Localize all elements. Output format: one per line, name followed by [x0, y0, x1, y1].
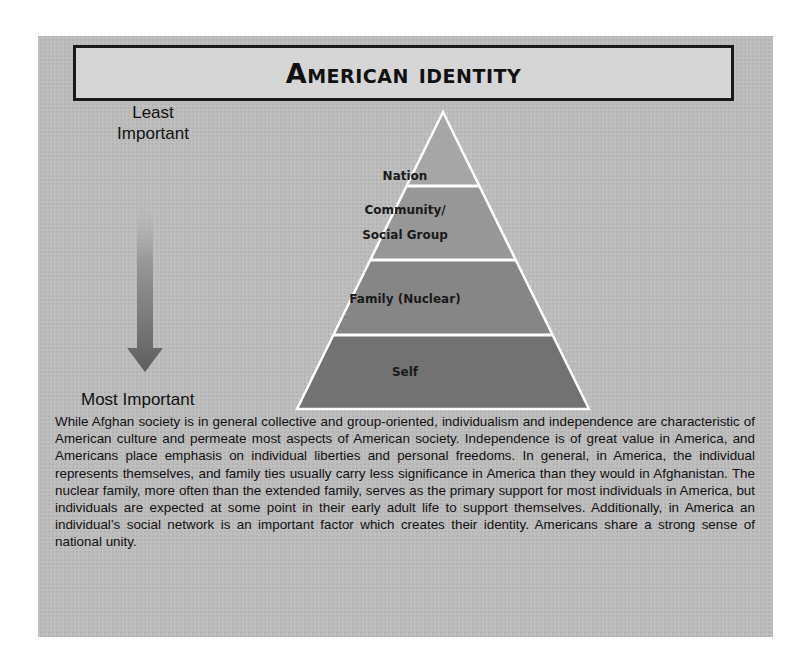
title-box: American Identity	[73, 45, 734, 101]
tier-label-family: Family (Nuclear)	[325, 287, 485, 311]
tier-label-nation: Nation	[325, 164, 485, 188]
importance-arrow-icon	[126, 186, 166, 391]
tier-label-community-line-2: Social Group	[325, 223, 485, 248]
least-important-line-1: Least	[103, 102, 203, 123]
least-important-label: Least Important	[103, 102, 203, 144]
least-important-line-2: Important	[103, 123, 203, 144]
description-paragraph: While Afghan society is in general colle…	[55, 413, 755, 551]
tier-label-community-line-1: Community/	[325, 198, 485, 223]
tier-label-self: Self	[325, 360, 485, 384]
page-title: American Identity	[286, 58, 521, 89]
tier-label-community: Community/ Social Group	[325, 198, 485, 248]
slide-panel: American Identity Least Important Most I…	[38, 36, 773, 637]
most-important-label: Most Important	[81, 390, 194, 410]
